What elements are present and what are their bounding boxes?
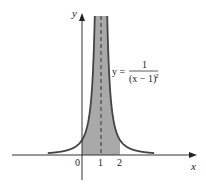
x-tick-2: 2: [117, 157, 122, 168]
x-axis-arrow-icon: [189, 152, 197, 158]
svg-text:2: 2: [155, 72, 159, 80]
svg-text:y =: y =: [112, 66, 126, 77]
graph: y x 0 1 2 y = 1 (x − 1) 2: [0, 0, 206, 190]
x-tick-1: 1: [98, 157, 103, 168]
x-axis-label: x: [190, 160, 196, 172]
y-axis-arrow-icon: [79, 13, 85, 21]
svg-text:(x − 1): (x − 1): [129, 73, 156, 85]
y-axis-label: y: [71, 7, 77, 19]
x-tick-0: 0: [75, 157, 80, 168]
function-label: y = 1 (x − 1) 2: [112, 59, 159, 85]
svg-text:1: 1: [142, 59, 147, 70]
